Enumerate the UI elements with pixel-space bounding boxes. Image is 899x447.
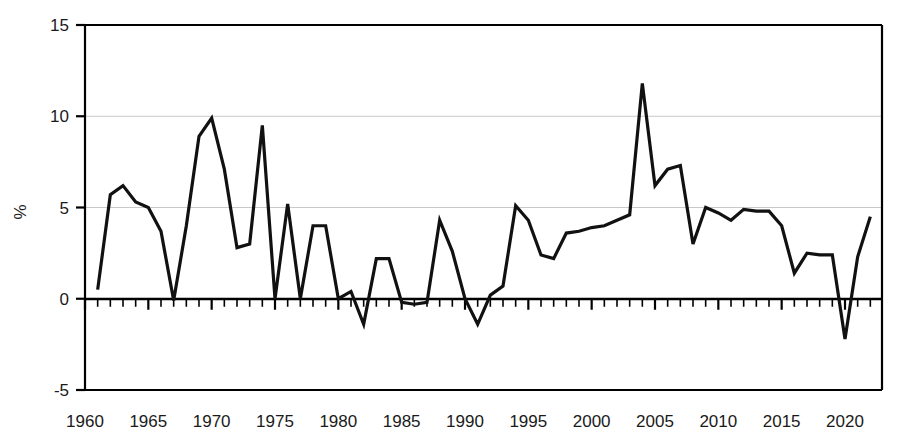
y-tick-label: 5 — [60, 199, 69, 218]
x-tick-label: 2020 — [826, 412, 864, 431]
y-major-ticks — [76, 25, 85, 390]
y-tick-label: 10 — [50, 107, 69, 126]
data-series-line — [98, 83, 871, 339]
x-tick-label: 2010 — [699, 412, 737, 431]
y-tick-labels: -5051015 — [50, 16, 69, 400]
x-tick-label: 2015 — [763, 412, 801, 431]
y-tick-label: 0 — [60, 290, 69, 309]
y-tick-label: 15 — [50, 16, 69, 35]
line-chart-canvas: -5051015 1960196519701975198019851990199… — [0, 0, 899, 447]
x-tick-label: 2005 — [636, 412, 674, 431]
x-tick-label: 1995 — [509, 412, 547, 431]
y-tick-label: -5 — [54, 381, 69, 400]
x-tick-labels: 1960196519701975198019851990199520002005… — [66, 412, 864, 431]
x-tick-label: 1985 — [383, 412, 421, 431]
chart-figure: -5051015 1960196519701975198019851990199… — [0, 0, 899, 447]
x-minor-ticks — [85, 299, 870, 310]
x-tick-label: 1960 — [66, 412, 104, 431]
x-tick-label: 1970 — [193, 412, 231, 431]
x-tick-label: 1990 — [446, 412, 484, 431]
x-tick-label: 1975 — [256, 412, 294, 431]
x-tick-label: 1965 — [129, 412, 167, 431]
x-tick-label: 2000 — [573, 412, 611, 431]
y-axis-title: % — [11, 204, 30, 219]
y-axis-title-text: % — [11, 204, 30, 219]
x-tick-label: 1980 — [319, 412, 357, 431]
